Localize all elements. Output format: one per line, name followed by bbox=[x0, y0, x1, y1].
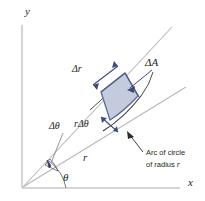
theta-label: θ bbox=[63, 172, 68, 183]
y-axis-label: y bbox=[25, 6, 30, 17]
delta-theta-label: Δθ bbox=[49, 121, 60, 131]
arc-annotation-leader bbox=[127, 131, 143, 152]
delta-theta-leader bbox=[51, 133, 63, 163]
delta-r-label: Δr bbox=[72, 64, 82, 74]
arc-annotation-line2: of radius r bbox=[146, 159, 180, 170]
figure-canvas bbox=[0, 0, 205, 201]
outer-arc-extension bbox=[141, 72, 153, 96]
r-delta-theta-label: rΔθ bbox=[74, 119, 89, 129]
radius-label: r bbox=[83, 152, 87, 163]
x-axis-label: x bbox=[188, 177, 193, 188]
arc-annotation-line1: Arc of circle bbox=[146, 147, 185, 158]
polar-area-element-figure: y x Δr ΔA Δθ rΔθ r θ Arc of circle of ra… bbox=[0, 0, 205, 201]
arc-annotation-radius-symbol: r bbox=[177, 160, 180, 169]
delta-a-label: ΔA bbox=[145, 57, 158, 68]
delta-a-leader bbox=[127, 70, 152, 93]
area-element-delta-a bbox=[101, 73, 138, 120]
arc-annotation-line2-prefix: of radius bbox=[146, 160, 177, 169]
